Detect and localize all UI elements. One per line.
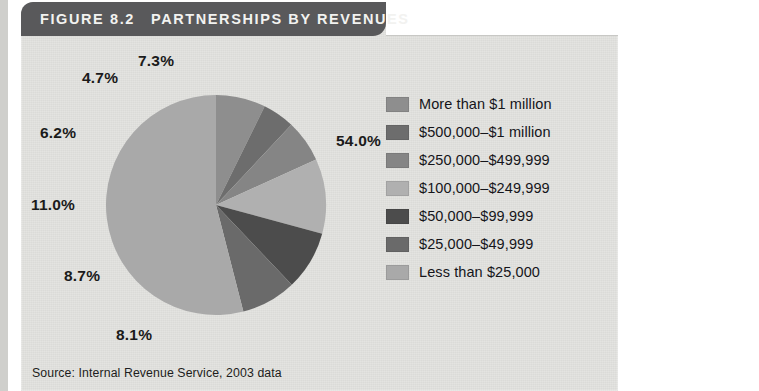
pie-label-50k-99999: 8.7% (64, 267, 100, 285)
pie-chart-svg (105, 94, 327, 316)
sidebar-panel: The majority of partnerships are quite s… (618, 0, 759, 391)
figure-page: FIGURE 8.2 PARTNERSHIPS BY REVENUES 7.3%… (0, 0, 759, 391)
figure-number-label: FIGURE 8.2 (40, 11, 135, 27)
pie-label-500k-1-million: 4.7% (82, 69, 118, 87)
page-left-margin-rule (0, 0, 8, 391)
pie-label-100k-249999: 11.0% (31, 196, 75, 214)
pie-label-250k-499999: 6.2% (40, 124, 76, 142)
pie-label-more-than-1-million: 7.3% (138, 52, 174, 70)
chart-area: 7.3% 4.7% 6.2% 11.0% 8.7% 8.1% 54.0% (21, 36, 618, 391)
page-left-margin-space (8, 0, 21, 391)
pie-label-25k-49999: 8.1% (116, 326, 152, 344)
pie-label-less-than-25k: 54.0% (336, 132, 381, 150)
header-gap-rule (386, 35, 618, 36)
figure-header-bar: FIGURE 8.2 PARTNERSHIPS BY REVENUES (21, 2, 386, 36)
figure-title: PARTNERSHIPS BY REVENUES (151, 11, 410, 27)
pie-slice-group (106, 95, 326, 315)
source-note: Source: Internal Revenue Service, 2003 d… (32, 366, 282, 380)
pie-chart (105, 94, 327, 316)
header-gap (386, 0, 618, 36)
